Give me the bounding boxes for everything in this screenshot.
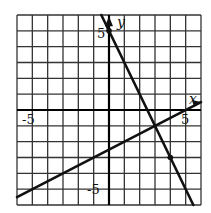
x-axis-label: x bbox=[189, 91, 197, 107]
point-marker bbox=[106, 28, 112, 34]
coordinate-plane: y x 5 -5 -5 5 bbox=[0, 0, 211, 213]
x-tick-label-neg5: -5 bbox=[22, 112, 35, 127]
x-tick-label-5: 5 bbox=[181, 112, 189, 127]
axes bbox=[17, 15, 201, 205]
arrowhead-icon bbox=[105, 16, 113, 26]
y-tick-label-neg5: -5 bbox=[87, 182, 100, 197]
point-marker bbox=[168, 155, 174, 161]
y-axis-label: y bbox=[116, 14, 126, 30]
y-tick-label-5: 5 bbox=[97, 26, 105, 41]
